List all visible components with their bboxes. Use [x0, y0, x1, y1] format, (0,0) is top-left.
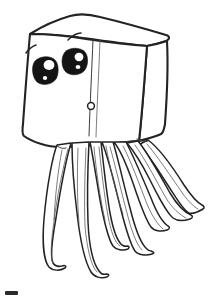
- mouth: [88, 103, 95, 110]
- eye-left: [33, 57, 59, 85]
- squid-drawing: [0, 0, 219, 301]
- head-front-face: [22, 34, 147, 147]
- sketch-canvas: Hand-drawn sketch of a Minecraft squid: [0, 0, 219, 301]
- eye-right: [62, 48, 88, 75]
- corner-smudge: [5, 291, 18, 295]
- eye-left-highlight-large: [44, 60, 55, 70]
- eye-right-highlight-large: [75, 53, 84, 61]
- eye-left-highlight-small: [43, 76, 47, 80]
- eye-right-highlight-small: [76, 65, 81, 69]
